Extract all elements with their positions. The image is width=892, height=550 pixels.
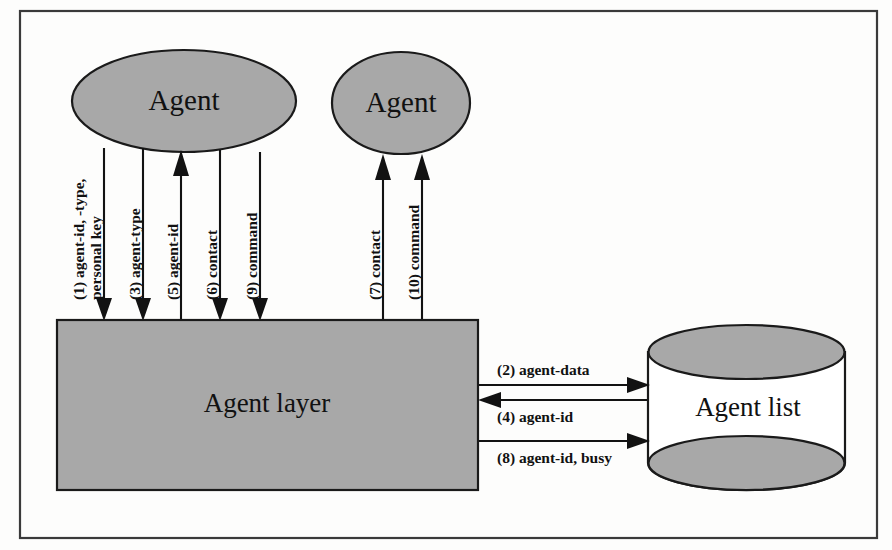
node-agent-list[interactable]: Agent list [648,325,845,490]
edge-8-label: (8) agent-id, busy [497,449,612,467]
edge-10-label: (10) command [405,204,423,300]
edge-9-label: (9) command [243,212,261,300]
node-agent2[interactable]: Agent [332,52,470,154]
edge-5-label: (5) agent-id [164,223,182,300]
edge-6-contact[interactable]: (6) contact [203,150,228,321]
edge-6-arrowhead [212,298,228,321]
node-agent-layer[interactable]: Agent layer [57,320,478,490]
agent-list-bottom-cap [649,436,845,490]
agent-list-top-cap [649,325,845,379]
edge-1-label-line1: (1) agent-id, -type, [70,178,88,300]
edge-7-label: (7) contact [366,229,384,300]
edge-1-arrowhead [96,298,112,321]
edge-10-arrowhead [414,154,430,180]
edge-7-arrowhead [375,154,391,180]
edge-2-arrowhead [627,377,650,393]
diagram-canvas: Agent Agent (1) agent-id, -type, persona… [0,0,892,550]
edge-10-command[interactable]: (10) command [405,154,430,319]
edge-3-agent-type[interactable]: (3) agent-type [126,148,151,321]
edge-3-arrowhead [135,298,151,321]
agent-layer-diagram: Agent Agent (1) agent-id, -type, persona… [0,0,892,550]
edge-2-agent-data[interactable]: (2) agent-data [479,361,650,393]
edge-8-arrowhead [627,433,650,449]
edge-3-label: (3) agent-type [126,208,144,300]
agent2-label: Agent [366,86,437,118]
agent-list-label: Agent list [695,392,801,422]
edge-2-label: (2) agent-data [497,361,590,379]
agent-layer-label: Agent layer [204,388,331,418]
edge-4-arrowhead [478,392,501,408]
edge-7-contact[interactable]: (7) contact [366,154,391,319]
edge-4-agent-id[interactable]: (4) agent-id [478,392,647,426]
edge-8-agent-id-busy[interactable]: (8) agent-id, busy [479,433,650,467]
edge-1-agent-id-type-personal-key[interactable]: (1) agent-id, -type, personal key [70,148,112,321]
agent1-label: Agent [149,84,220,116]
node-agent1[interactable]: Agent [72,50,296,152]
edge-9-arrowhead [252,298,268,321]
edge-9-command[interactable]: (9) command [243,152,268,321]
edge-5-agent-id[interactable]: (5) agent-id [164,150,189,319]
edge-5-arrowhead [173,150,189,176]
edge-6-label: (6) contact [203,229,221,300]
edge-4-label: (4) agent-id [497,408,574,426]
edge-1-label-line2: personal key [87,216,104,300]
